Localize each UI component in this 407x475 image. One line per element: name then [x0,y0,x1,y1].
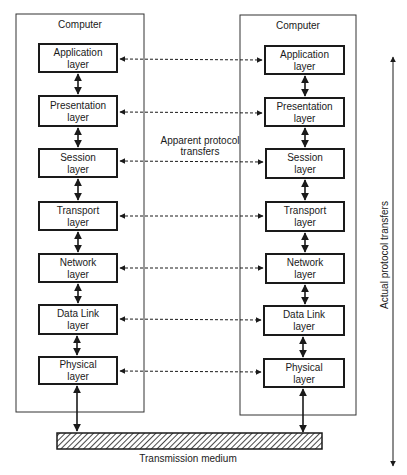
layer-label: layer [67,112,89,123]
transmission-medium-label: Transmission medium [139,453,236,464]
layer-label: layer [293,321,315,332]
right-session-layer: Session layer [266,149,344,178]
layer-label: layer [294,217,316,228]
apparent-transfer-arrows [120,59,263,372]
left-session-layer: Session layer [39,149,117,177]
layer-label: Data Link [57,308,100,319]
layer-label: Data Link [283,309,326,320]
transmission-medium: Transmission medium [57,433,322,464]
layer-label: layer [294,164,316,175]
dashed-double-arrow-icon [120,161,263,162]
actual-protocol-label: Actual protocol transfers [379,201,390,309]
layer-label: Session [60,152,96,163]
right-physical-layer: Physical layer [264,359,344,387]
right-layer-stack: Application layer Presentation layer Ses… [264,46,344,387]
layer-label: Presentation [276,101,332,112]
layer-label: Transport [284,205,327,216]
layer-label: layer [294,269,316,280]
right-transport-layer: Transport layer [266,202,344,231]
layer-label: layer [67,371,89,382]
layer-label: layer [67,269,89,280]
dashed-double-arrow-icon [120,112,262,113]
dashed-double-arrow-icon [120,59,262,60]
right-data-link-layer: Data Link layer [264,306,344,335]
left-transport-layer: Transport layer [39,202,117,230]
layer-label: Application [280,49,329,60]
right-application-layer: Application layer [265,46,344,74]
layer-label: layer [67,217,89,228]
layer-label: layer [67,164,89,175]
layer-label: layer [293,374,315,385]
left-physical-layer: Physical layer [39,357,117,384]
layer-label: layer [67,320,89,331]
left-presentation-layer: Presentation layer [39,96,117,126]
layer-label: Session [287,152,323,163]
apparent-label-line1: Apparent protocol [161,135,240,146]
layer-label: Network [60,257,98,268]
layer-label: Physical [59,359,96,370]
layer-label: layer [294,113,316,124]
right-network-layer: Network layer [266,254,344,283]
right-computer-title: Computer [276,20,321,31]
right-presentation-layer: Presentation layer [265,98,344,126]
layer-label: Application [54,47,103,58]
osi-model-diagram: Computer Computer Application layer Pres… [0,0,407,475]
layer-label: Physical [285,362,322,373]
layer-label: Network [287,257,325,268]
left-data-link-layer: Data Link layer [39,305,117,334]
apparent-label-line2: transfers [181,146,220,157]
left-layer-stack: Application layer Presentation layer Ses… [39,44,117,384]
actual-protocol-transfers: Actual protocol transfers [379,57,393,466]
layer-label: Presentation [50,100,106,111]
left-network-layer: Network layer [39,254,117,282]
transmission-medium-bar [57,433,322,449]
layer-label: layer [67,59,89,70]
layer-label: Transport [57,205,100,216]
left-computer-title: Computer [58,19,103,30]
apparent-protocol-label: Apparent protocol transfers [161,135,240,157]
left-application-layer: Application layer [39,44,117,72]
layer-label: layer [294,61,316,72]
